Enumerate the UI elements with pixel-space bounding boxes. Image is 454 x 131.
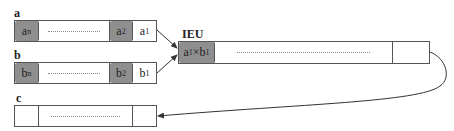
arrows [0, 0, 454, 131]
arrow-a1-to-ieu [157, 30, 177, 48]
arrow-b1-to-ieu [157, 55, 177, 73]
arrow-ieu-to-c [158, 52, 446, 116]
